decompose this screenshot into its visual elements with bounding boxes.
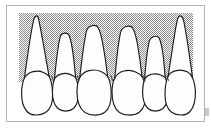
edge-artifact bbox=[205, 108, 209, 116]
figure-canvas bbox=[0, 0, 211, 128]
dental-illustration-figure: Anterior teeth with gingiva Line drawing… bbox=[0, 0, 211, 128]
